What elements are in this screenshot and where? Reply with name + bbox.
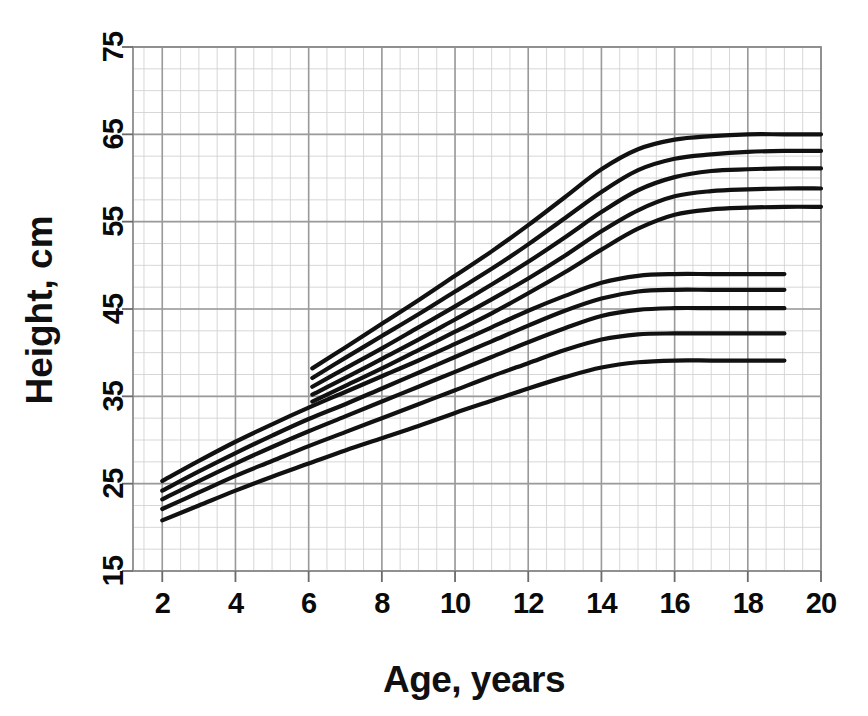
x-tick-label: 4	[228, 587, 244, 619]
x-tick-label: 12	[513, 587, 543, 619]
x-tick-label: 16	[659, 587, 690, 619]
x-tick-label: 8	[374, 587, 390, 619]
y-tick-label: 65	[97, 118, 129, 149]
y-tick-label: 45	[97, 293, 129, 324]
y-axis-title: Height, cm	[19, 215, 60, 404]
growth-chart-figure: 246810121416182015253545556575 Age, year…	[0, 0, 868, 716]
x-tick-label: 2	[155, 587, 170, 619]
x-axis-title: Age, years	[383, 659, 565, 700]
x-tick-label: 10	[440, 587, 470, 619]
y-tick-label: 55	[97, 206, 129, 237]
y-tick-label: 75	[97, 31, 129, 62]
y-tick-label: 35	[97, 380, 129, 411]
y-tick-label: 15	[97, 555, 129, 586]
x-tick-label: 18	[733, 587, 764, 619]
x-tick-label: 6	[301, 587, 317, 619]
x-tick-label: 20	[806, 587, 836, 619]
x-tick-label: 14	[586, 587, 617, 619]
y-tick-label: 25	[97, 468, 129, 499]
chart-canvas: 246810121416182015253545556575 Age, year…	[0, 0, 868, 716]
